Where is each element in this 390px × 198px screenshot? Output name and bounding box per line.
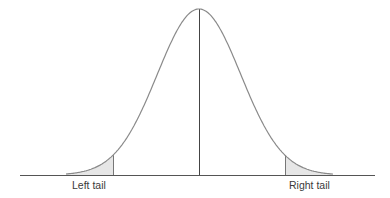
right-tail-shaded-area [285,155,333,175]
right-tail-label: Right tail [289,179,330,191]
left-tail-shaded-area [66,155,113,175]
left-tail-label: Left tail [72,179,106,191]
normal-distribution-diagram: Left tail Right tail [0,0,390,198]
